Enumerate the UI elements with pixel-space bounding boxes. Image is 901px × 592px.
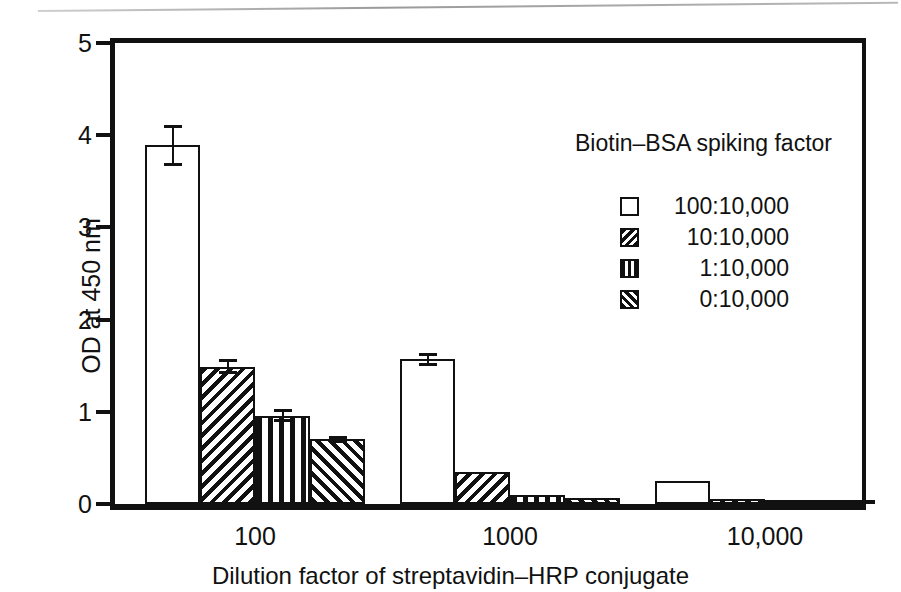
y-tick-mark (96, 133, 110, 137)
y-tick-mark (96, 318, 110, 322)
bar (400, 359, 455, 504)
y-tick-mark (96, 410, 110, 414)
x-tick-label: 100 (234, 522, 276, 551)
error-bar (227, 359, 229, 374)
legend-item: 10:10,000 (620, 222, 850, 253)
legend-item: 0:10,000 (620, 284, 850, 315)
legend-item-label: 100:10,000 (639, 193, 789, 220)
legend-swatch-vertical-icon (620, 259, 639, 278)
error-bar-cap (329, 440, 347, 443)
frame-top (110, 38, 866, 43)
y-tick-label: 0 (78, 492, 92, 517)
error-bar-cap (419, 353, 437, 356)
y-tick-label: 1 (78, 399, 92, 424)
bar (200, 367, 255, 504)
frame-bottom (110, 504, 866, 510)
error-bar-cap (419, 363, 437, 366)
error-bar-cap (274, 409, 292, 412)
bar (765, 500, 820, 504)
x-axis-title: Dilution factor of streptavidin–HRP conj… (0, 562, 901, 590)
frame-right (862, 38, 866, 510)
legend-item: 1:10,000 (620, 253, 850, 284)
y-tick-label: 4 (78, 123, 92, 148)
bar-chart-figure: OD at 450 nm 012345 100100010,000 Diluti… (0, 0, 901, 592)
y-tick-label: 2 (78, 307, 92, 332)
bar (710, 499, 765, 504)
error-bar-cap (219, 371, 237, 374)
error-bar (282, 409, 284, 422)
bar (455, 472, 510, 504)
error-bar-cap (164, 163, 182, 166)
y-tick-label: 3 (78, 215, 92, 240)
error-bar-cap (329, 436, 347, 439)
y-axis-title: OD at 450 nm (77, 218, 106, 374)
error-bar (427, 353, 429, 366)
legend-item-label: 10:10,000 (639, 224, 789, 251)
legend: Biotin–BSA spiking factor 100:10,00010:1… (575, 130, 850, 315)
legend-title: Biotin–BSA spiking factor (575, 130, 850, 157)
bar (255, 416, 310, 505)
legend-item: 100:10,000 (620, 191, 850, 222)
frame-left (110, 38, 115, 510)
legend-item-label: 0:10,000 (639, 286, 789, 313)
legend-swatch-fwd-hatch-icon (620, 290, 639, 309)
bar (820, 500, 875, 504)
legend-swatch-back-hatch-icon (620, 228, 639, 247)
bar (655, 481, 710, 504)
y-tick-mark (96, 41, 110, 45)
bar (565, 498, 620, 504)
error-bar-cap (164, 125, 182, 128)
bar (145, 145, 200, 504)
error-bar-cap (219, 359, 237, 362)
error-bar (172, 125, 174, 166)
error-bar (337, 436, 339, 443)
legend-item-label: 1:10,000 (639, 255, 789, 282)
x-tick-label: 10,000 (727, 522, 803, 551)
legend-swatch-open-icon (620, 197, 639, 216)
x-tick-label: 1000 (482, 522, 538, 551)
y-tick-label: 5 (78, 31, 92, 56)
y-tick-mark (96, 225, 110, 229)
error-bar-cap (274, 419, 292, 422)
bar (510, 495, 565, 504)
legend-items: 100:10,00010:10,0001:10,0000:10,000 (620, 191, 850, 315)
y-tick-mark (96, 502, 110, 506)
bar (310, 439, 365, 504)
